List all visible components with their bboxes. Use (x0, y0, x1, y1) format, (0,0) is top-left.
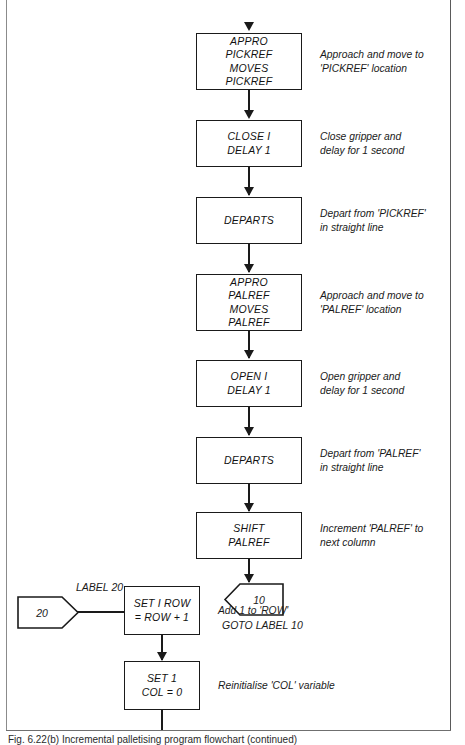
flow-node-open-delay[interactable]: OPEN I DELAY 1 (196, 360, 302, 407)
arrow-into-departs-palref (244, 427, 254, 436)
flow-node-set-col[interactable]: SET 1 COL = 0 (124, 661, 200, 710)
node-line: COL = 0 (142, 686, 183, 700)
flow-node-departs-palref[interactable]: DEPARTS (196, 437, 302, 484)
arrow-into-set-col (157, 652, 167, 661)
flow-node-appro-palref[interactable]: APPRO PALREF MOVES PALREF (196, 274, 302, 331)
note-line: Depart from 'PALREF' (320, 447, 420, 461)
node-line: SET I ROW (134, 597, 191, 611)
note-close-delay: Close gripper and delay for 1 second (320, 130, 404, 157)
node-line: DELAY 1 (227, 384, 271, 398)
label-20-caption: LABEL 20 (76, 581, 123, 594)
figure-canvas: APPRO PICKREF MOVES PICKREF Approach and… (0, 0, 465, 745)
node-line: OPEN I (231, 370, 268, 384)
note-open-delay: Open gripper and delay for 1 second (320, 370, 404, 397)
note-line: 'PICKREF' location (320, 62, 424, 76)
note-departs-palref: Depart from 'PALREF' in straight line (320, 447, 420, 474)
arrow-into-appro-palref (244, 264, 254, 273)
arrow-into-goto10-connector (244, 574, 254, 583)
node-line: APPRO (230, 276, 268, 290)
flow-node-appro-pickref[interactable]: APPRO PICKREF MOVES PICKREF (196, 33, 302, 90)
node-line: PALREF (228, 536, 269, 550)
node-line: MOVES (230, 62, 269, 76)
note-shift-palref: Increment 'PALREF' to next column (320, 522, 423, 549)
note-line: in straight line (320, 221, 426, 235)
arrow-into-open-delay (244, 350, 254, 359)
arrow-into-shift-palref (244, 503, 254, 512)
note-line: next column (320, 536, 423, 550)
note-line: Open gripper and (320, 370, 404, 384)
node-line: APPRO (230, 35, 268, 49)
edge-label20-to-set-row (77, 611, 125, 613)
node-line: CLOSE I (228, 130, 271, 144)
arrow-into-close-delay (244, 110, 254, 119)
note-line: Reinitialise 'COL' variable (218, 679, 335, 693)
note-line: delay for 1 second (320, 144, 404, 158)
note-appro-palref: Approach and move to 'PALREF' location (320, 289, 424, 316)
figure-frame-right-rule (450, 0, 451, 731)
node-line: DELAY 1 (227, 144, 271, 158)
node-line: DEPARTS (224, 454, 274, 468)
connector-value: 10 (243, 594, 265, 606)
flow-node-close-delay[interactable]: CLOSE I DELAY 1 (196, 120, 302, 167)
flow-node-shift-palref[interactable]: SHIFT PALREF (196, 512, 302, 559)
node-line: PICKREF (226, 48, 273, 62)
arrow-into-appro-pickref (244, 22, 254, 31)
connector-value: 20 (36, 607, 60, 619)
note-line: delay for 1 second (320, 384, 404, 398)
connector-label-20[interactable]: 20 (17, 596, 79, 629)
node-line: SET 1 (147, 672, 177, 686)
note-line: in straight line (320, 461, 420, 475)
goto-label-10-caption: GOTO LABEL 10 (222, 619, 303, 632)
node-line: DEPARTS (224, 214, 274, 228)
flow-node-departs-pickref[interactable]: DEPARTS (196, 197, 302, 244)
figure-caption: Fig. 6.22(b) Incremental palletising pro… (8, 734, 297, 745)
note-line: Approach and move to (320, 289, 424, 303)
note-set-row: Add 1 to 'ROW' (218, 604, 288, 618)
arrow-into-departs-pickref (244, 187, 254, 196)
node-line: PALREF (228, 289, 269, 303)
note-line: Close gripper and (320, 130, 404, 144)
note-set-col: Reinitialise 'COL' variable (218, 679, 335, 693)
node-line: = ROW + 1 (135, 611, 189, 625)
node-line: MOVES (230, 303, 269, 317)
note-line: Depart from 'PICKREF' (320, 207, 426, 221)
note-line: 'PALREF' location (320, 303, 424, 317)
note-appro-pickref: Approach and move to 'PICKREF' location (320, 48, 424, 75)
flow-node-set-row[interactable]: SET I ROW = ROW + 1 (124, 586, 200, 635)
figure-frame-left-rule (6, 0, 7, 731)
note-line: Add 1 to 'ROW' (218, 604, 288, 618)
figure-frame-bottom-rule (6, 730, 451, 731)
node-line: PALREF (228, 316, 269, 330)
node-line: SHIFT (233, 522, 264, 536)
node-line: PICKREF (226, 75, 273, 89)
note-departs-pickref: Depart from 'PICKREF' in straight line (320, 207, 426, 234)
note-line: Approach and move to (320, 48, 424, 62)
note-line: Increment 'PALREF' to (320, 522, 423, 536)
edge-set-col-continues-offpage (161, 710, 163, 730)
